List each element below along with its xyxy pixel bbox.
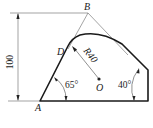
dim-arrow-top-icon: [16, 13, 19, 19]
point-label-D: D: [56, 46, 65, 57]
construction-line-DB: [68, 13, 88, 49]
angle-arrow-40-top-icon: [137, 68, 140, 74]
angle-label-40: 40°: [118, 80, 132, 90]
geometry-diagram: 100 R40 65° 40° B D O A: [0, 0, 153, 128]
point-label-O: O: [96, 82, 103, 93]
angle-arrow-65-top-icon: [54, 77, 58, 82]
height-dimension-label: 100: [5, 55, 15, 70]
dim-arrow-bottom-icon: [16, 95, 19, 101]
point-label-A: A: [34, 102, 42, 113]
center-point-O: [97, 77, 100, 80]
radius-label: R40: [81, 44, 100, 64]
angle-label-65: 65°: [65, 80, 79, 90]
angle-arc-40: [132, 70, 138, 100]
point-label-B: B: [84, 1, 90, 12]
